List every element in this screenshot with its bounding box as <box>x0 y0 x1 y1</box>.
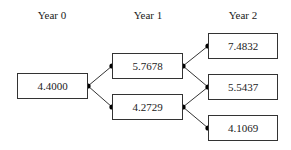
node-year0: 4.4000 <box>17 73 88 99</box>
node-value: 7.4832 <box>228 40 258 52</box>
node-year2-mid: 5.5437 <box>208 74 278 100</box>
node-year1-down: 4.2729 <box>112 94 183 120</box>
node-value: 4.2729 <box>132 101 162 113</box>
node-year2-upup: 7.4832 <box>208 33 278 59</box>
node-year1-up: 5.7678 <box>112 53 183 79</box>
node-year2-downdown: 4.1069 <box>208 115 278 141</box>
node-value: 4.1069 <box>228 122 258 134</box>
node-value: 4.4000 <box>37 80 67 92</box>
node-value: 5.5437 <box>228 81 258 93</box>
node-value: 5.7678 <box>132 60 162 72</box>
